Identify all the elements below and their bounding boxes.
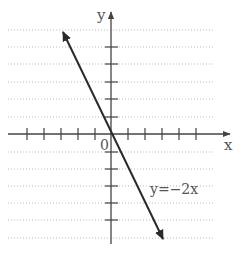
line-equation-label: y=−2x — [149, 181, 198, 197]
y-axis-label: y — [96, 6, 106, 24]
graph-canvas: y x 0 y=−2x — [0, 0, 244, 256]
x-axis-label: x — [224, 136, 233, 154]
origin-label: 0 — [100, 137, 109, 153]
